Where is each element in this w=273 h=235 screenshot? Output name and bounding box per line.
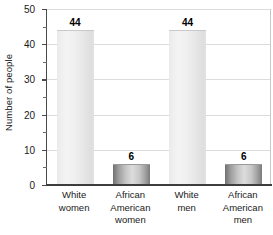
- bar-value-label: 6: [129, 151, 135, 162]
- y-axis-tick: 20: [42, 115, 47, 116]
- y-axis-tick-label: 10: [24, 144, 35, 155]
- x-axis-line: [46, 184, 272, 186]
- y-axis-tick: 30: [42, 79, 47, 80]
- x-axis-category-label-line: American: [102, 202, 158, 215]
- y-axis-tick-label: 20: [24, 109, 35, 120]
- bar: 44: [57, 30, 94, 185]
- y-axis-tick-label: 0: [29, 180, 35, 191]
- y-axis-minor-tick: [43, 27, 47, 28]
- y-axis-title: Number of people: [0, 0, 18, 185]
- gridline: [47, 9, 270, 10]
- y-axis-tick-label: 40: [24, 39, 35, 50]
- x-axis-category-label-line: men: [215, 214, 271, 227]
- y-axis-tick: 50: [42, 9, 47, 10]
- x-axis-category-label: Whitemen: [159, 189, 215, 214]
- x-axis-category-label-line: women: [46, 202, 102, 215]
- x-axis-category-label: AfricanAmericanwomen: [102, 189, 158, 227]
- bar: 44: [169, 30, 206, 185]
- x-axis-category-label: Whitewomen: [46, 189, 102, 214]
- y-axis-tick: 40: [42, 44, 47, 45]
- x-axis-category-label-line: American: [215, 202, 271, 215]
- bar: 6: [113, 164, 150, 185]
- x-axis-category-label-line: White: [46, 189, 102, 202]
- x-axis-category-label-line: White: [159, 189, 215, 202]
- x-axis-category-label-line: women: [102, 214, 158, 227]
- y-axis-tick-label: 30: [24, 74, 35, 85]
- y-axis-tick: 10: [42, 150, 47, 151]
- bar-value-label: 6: [241, 151, 247, 162]
- y-axis-tick-label: 50: [24, 4, 35, 15]
- y-axis-minor-tick: [43, 62, 47, 63]
- x-axis-category-label: AfricanAmericanmen: [215, 189, 271, 227]
- y-axis-minor-tick: [43, 97, 47, 98]
- x-axis-category-label-line: African: [215, 189, 271, 202]
- bar: 6: [225, 164, 262, 185]
- y-axis-minor-tick: [43, 167, 47, 168]
- y-axis-minor-tick: [43, 132, 47, 133]
- x-axis-category-label-line: men: [159, 202, 215, 215]
- bar-chart: Number of people 01020304050 446446 Whit…: [0, 0, 273, 235]
- x-axis-category-label-line: African: [102, 189, 158, 202]
- bar-value-label: 44: [70, 17, 81, 28]
- y-axis-title-label: Number of people: [4, 54, 15, 131]
- bar-value-label: 44: [182, 17, 193, 28]
- plot-area: 01020304050 446446: [46, 9, 271, 185]
